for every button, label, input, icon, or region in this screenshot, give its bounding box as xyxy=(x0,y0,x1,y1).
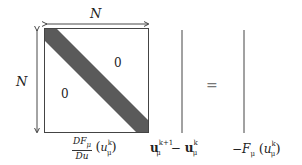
rhs-vector-caption: −Fμ (ukμ) xyxy=(232,141,280,158)
equals-sign: = xyxy=(206,77,218,93)
unknown-vector-caption: uk+1μ− ukμ xyxy=(150,141,197,157)
width-label: N xyxy=(90,6,101,21)
jacobian-caption: DFμ Du (ukμ) xyxy=(72,136,117,161)
lower-zero: 0 xyxy=(61,87,69,101)
upper-zero: 0 xyxy=(114,56,122,70)
height-label: N xyxy=(16,74,27,89)
